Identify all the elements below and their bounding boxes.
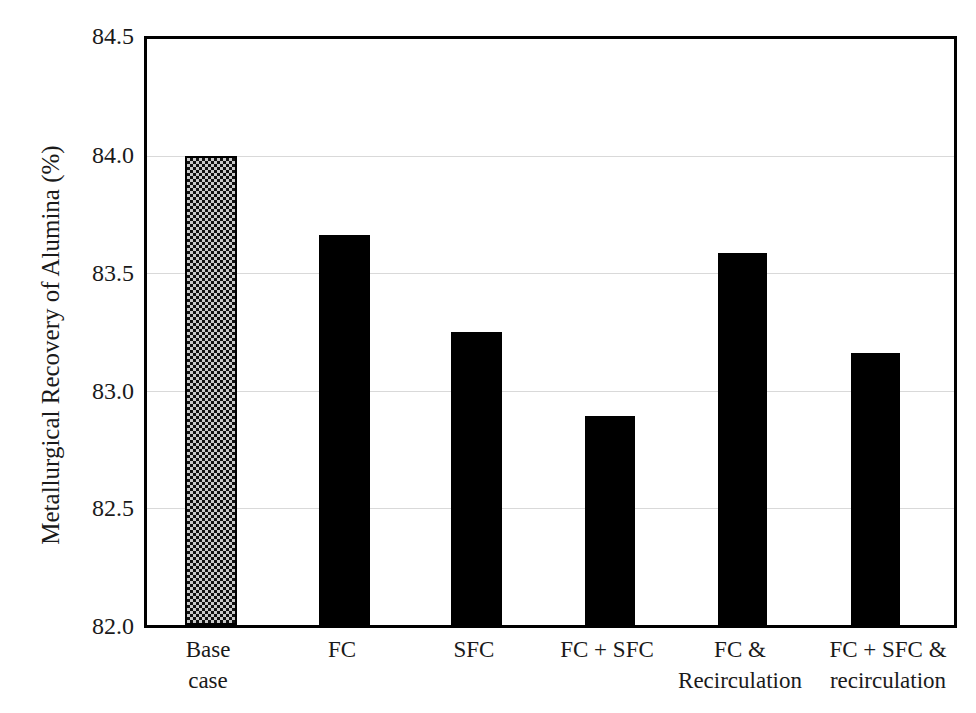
gridline-83-5 (147, 273, 954, 274)
plot-area (144, 36, 957, 628)
x-tick-line: FC + SFC (543, 634, 671, 665)
bar-base-case (185, 156, 237, 625)
y-tick-label: 84.0 (50, 143, 134, 167)
y-tick-label: 82.5 (50, 496, 134, 520)
bar-fc-and-recirculation (718, 253, 767, 625)
x-tick-line: Base (154, 634, 262, 665)
x-tick-label-fc-plus-sfc: FC + SFC (543, 634, 671, 665)
y-tick-label: 83.0 (50, 379, 134, 403)
plot-inner (147, 39, 954, 625)
x-tick-line: SFC (420, 634, 528, 665)
gridline-83-0 (147, 391, 954, 392)
gridline-82-5 (147, 508, 954, 509)
y-axis-tick-labels: 84.5 84.0 83.5 83.0 82.5 82.0 (44, 0, 134, 713)
x-tick-label-sfc: SFC (420, 634, 528, 665)
x-tick-line: FC + SFC & (814, 634, 962, 665)
x-tick-label-base-case: Base case (154, 634, 262, 696)
x-tick-line: Recirculation (666, 665, 814, 696)
x-tick-line: recirculation (814, 665, 962, 696)
x-tick-line: FC (288, 634, 396, 665)
y-tick-label: 83.5 (50, 261, 134, 285)
x-tick-line: FC & (666, 634, 814, 665)
x-tick-label-fc-and-recirculation: FC & Recirculation (666, 634, 814, 696)
x-tick-label-fc-sfc-recirculation: FC + SFC & recirculation (814, 634, 962, 696)
x-tick-line: case (154, 665, 262, 696)
x-axis-tick-labels: Base case FC SFC FC + SFC FC & Recircula… (144, 634, 957, 713)
bar-fc (319, 235, 370, 625)
x-tick-label-fc: FC (288, 634, 396, 665)
chart-page: Metallurgical Recovery of Alumina (%) 84… (0, 0, 976, 713)
bar-fc-sfc-recirculation (851, 353, 900, 625)
y-tick-label: 82.0 (50, 614, 134, 638)
bar-sfc (451, 332, 502, 625)
y-tick-label: 84.5 (50, 24, 134, 48)
gridline-84-0 (147, 156, 954, 157)
bar-fc-plus-sfc (585, 416, 635, 625)
